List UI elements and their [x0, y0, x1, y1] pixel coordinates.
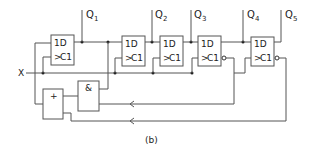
flipflop-1: 1D > C1	[51, 35, 74, 65]
input-x-label: X	[18, 68, 24, 78]
svg-text:1D: 1D	[125, 39, 138, 49]
and-gate: &	[78, 81, 99, 111]
svg-text:&: &	[85, 83, 92, 93]
q4-label: Q4	[247, 9, 260, 23]
q3-label: Q3	[194, 9, 206, 23]
svg-text:1D: 1D	[201, 39, 214, 49]
svg-text:C1: C1	[131, 53, 143, 63]
flipflop-3: 1D > C1	[160, 36, 183, 66]
svg-text:1D: 1D	[54, 38, 67, 48]
q5-label: Q5	[285, 9, 297, 23]
flipflop-4: 1D > C1	[198, 36, 226, 66]
flipflop-2: 1D > C1	[122, 36, 145, 66]
svg-text:1D: 1D	[163, 39, 176, 49]
or-gate: +	[43, 89, 63, 119]
circuit-diagram: X 1D > C1 Q1 1D > C1 Q2 1D > C1 Q3	[0, 0, 310, 154]
svg-text:C1: C1	[260, 53, 272, 63]
svg-text:C1: C1	[169, 53, 181, 63]
svg-text:1D: 1D	[254, 39, 267, 49]
flipflop-5: 1D > C1	[251, 37, 279, 66]
q2-label: Q2	[155, 9, 167, 23]
svg-text:C1: C1	[207, 53, 219, 63]
svg-text:+: +	[50, 91, 58, 101]
figure-caption: (b)	[145, 135, 158, 145]
svg-text:C1: C1	[60, 52, 72, 62]
q1-label: Q1	[86, 9, 98, 23]
